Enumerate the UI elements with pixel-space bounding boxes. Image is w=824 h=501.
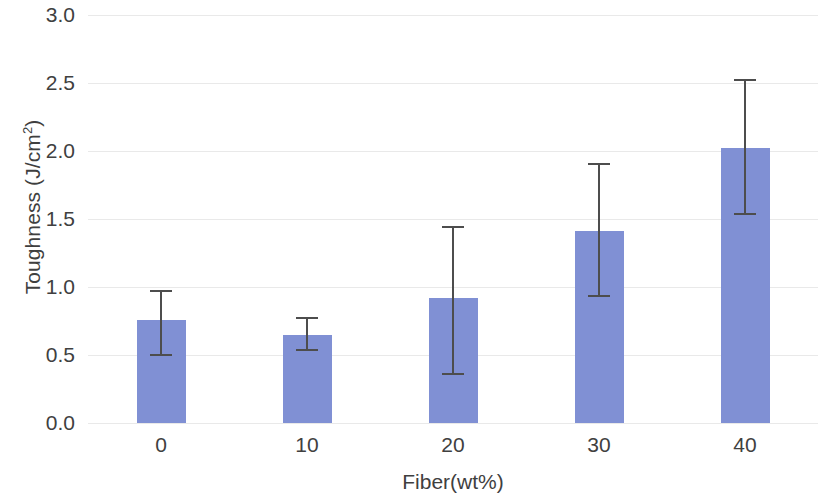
y-axis-tick-label: 1.5 bbox=[15, 207, 75, 231]
gridline bbox=[88, 15, 818, 16]
gridline bbox=[88, 423, 818, 424]
gridline bbox=[88, 83, 818, 84]
bar-chart-figure: Toughness (J/cm2) Fiber(wt%) 3.02.52.01.… bbox=[0, 0, 824, 501]
error-bar-cap-lower bbox=[296, 349, 318, 351]
y-axis-tick-label: 0.0 bbox=[15, 411, 75, 435]
error-bar bbox=[734, 79, 756, 215]
y-axis-tick-label: 0.5 bbox=[15, 343, 75, 367]
error-bar-stem bbox=[452, 226, 454, 376]
x-axis-tick-label: 20 bbox=[393, 433, 513, 457]
error-bar-stem bbox=[306, 317, 308, 351]
error-bar-cap-upper bbox=[442, 226, 464, 228]
error-bar-cap-lower bbox=[442, 373, 464, 375]
x-axis-title: Fiber(wt%) bbox=[88, 470, 818, 494]
error-bar-cap-upper bbox=[296, 317, 318, 319]
y-axis-tick-label: 2.0 bbox=[15, 139, 75, 163]
error-bar bbox=[296, 317, 318, 351]
error-bar-stem bbox=[160, 290, 162, 357]
x-axis-tick-label: 0 bbox=[101, 433, 221, 457]
error-bar-cap-lower bbox=[150, 354, 172, 356]
y-axis-title-tail: ) bbox=[21, 120, 44, 127]
error-bar-cap-lower bbox=[588, 295, 610, 297]
plot-area: 3.02.52.01.51.00.50.0 010203040 bbox=[88, 15, 818, 423]
gridline bbox=[88, 219, 818, 220]
error-bar bbox=[150, 290, 172, 357]
x-axis-tick-label: 30 bbox=[539, 433, 659, 457]
x-axis-tick-label: 10 bbox=[247, 433, 367, 457]
error-bar-cap-upper bbox=[150, 290, 172, 292]
x-axis-tick-label: 40 bbox=[685, 433, 805, 457]
error-bar bbox=[588, 163, 610, 296]
y-axis-title-superscript: 2 bbox=[20, 127, 35, 134]
error-bar-cap-upper bbox=[588, 163, 610, 165]
error-bar-cap-upper bbox=[734, 79, 756, 81]
error-bar-cap-lower bbox=[734, 213, 756, 215]
error-bar-stem bbox=[598, 163, 600, 296]
gridline bbox=[88, 151, 818, 152]
y-axis-tick-label: 2.5 bbox=[15, 71, 75, 95]
y-axis-tick-label: 1.0 bbox=[15, 275, 75, 299]
error-bar bbox=[442, 226, 464, 376]
error-bar-stem bbox=[744, 79, 746, 215]
y-axis-tick-label: 3.0 bbox=[15, 3, 75, 27]
